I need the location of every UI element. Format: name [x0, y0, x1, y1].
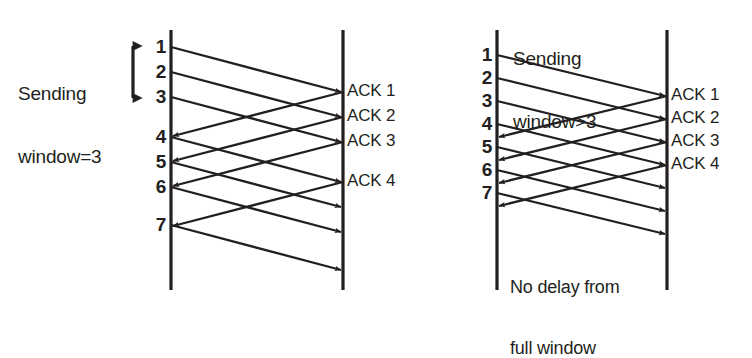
right-no-delay-note-line2: full window: [510, 338, 619, 358]
left-data-arrow-2: [171, 72, 341, 117]
left-ack-arrow-2: [173, 117, 343, 161]
right-ack-label-3: ACK 3: [671, 131, 719, 150]
right-data-arrow-7: [497, 193, 665, 234]
left-ack-label-3: ACK 3: [347, 131, 395, 150]
right-window-caption-line1: Sending: [513, 48, 596, 69]
left-seq-1: 1: [148, 36, 166, 57]
left-data-arrow-4: [171, 137, 341, 182]
left-seq-2: 2: [148, 61, 166, 82]
left-ack-label-2: ACK 2: [347, 106, 395, 125]
left-window-caption: Sending window=3: [18, 40, 101, 210]
right-ack-label-2: ACK 2: [671, 108, 719, 127]
right-ack-label-4: ACK 4: [671, 154, 719, 173]
right-seq-5: 5: [474, 136, 492, 157]
right-window-caption: Sending window>3: [513, 5, 596, 175]
right-ack-label-1: ACK 1: [671, 85, 719, 104]
left-seq-3: 3: [148, 86, 166, 107]
left-seq-7: 7: [148, 214, 166, 235]
right-no-delay-note-line1: No delay from: [510, 277, 619, 297]
left-ack-label-4: ACK 4: [347, 171, 395, 190]
right-no-delay-note: No delay from full window: [510, 237, 619, 358]
right-data-arrow-6: [497, 170, 665, 211]
left-seq-5: 5: [148, 151, 166, 172]
left-data-arrow-6: [171, 187, 341, 232]
left-ack-label-1: ACK 1: [347, 81, 395, 100]
right-seq-1: 1: [474, 44, 492, 65]
left-data-arrow-7: [171, 225, 341, 270]
left-window-caption-line2: window=3: [18, 146, 101, 167]
left-data-arrow-1: [171, 47, 341, 92]
right-seq-7: 7: [474, 182, 492, 203]
left-ack-arrow-1: [173, 92, 343, 136]
left-ack-arrow-3: [173, 142, 343, 186]
left-ack-arrow-4: [173, 182, 343, 226]
left-seq-4: 4: [148, 126, 166, 147]
right-seq-4: 4: [474, 113, 492, 134]
left-data-arrow-3: [171, 97, 341, 142]
left-data-arrow-5: [171, 162, 341, 207]
right-seq-2: 2: [474, 67, 492, 88]
left-window-caption-line1: Sending: [18, 83, 101, 104]
left-seq-6: 6: [148, 176, 166, 197]
right-seq-6: 6: [474, 159, 492, 180]
right-window-caption-line2: window>3: [513, 111, 596, 132]
right-seq-3: 3: [474, 90, 492, 111]
